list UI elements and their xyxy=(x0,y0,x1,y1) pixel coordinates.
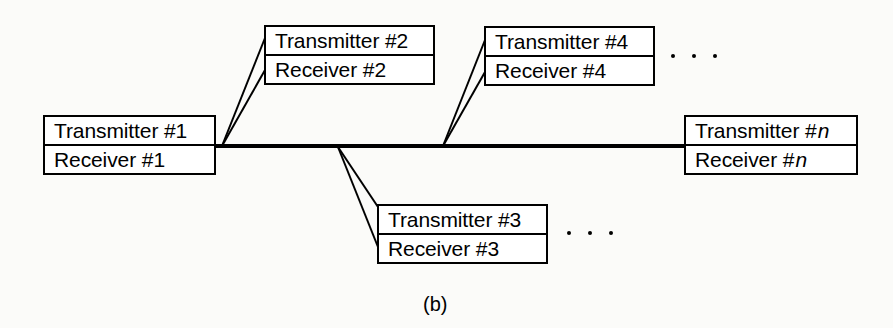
drop-lines-node-4 xyxy=(443,40,485,146)
receiver-prefix-n: Receiver # xyxy=(695,149,794,170)
transmitter-label-n: Transmitter #n xyxy=(686,117,856,146)
bus-topology-diagram: Transmitter #1 Receiver #1 Transmitter #… xyxy=(0,0,893,328)
node-box-4[interactable]: Transmitter #4 Receiver #4 xyxy=(484,26,655,86)
receiver-label-4: Receiver #4 xyxy=(486,57,653,84)
drop-lines-node-2 xyxy=(222,38,265,146)
receiver-label-2: Receiver #2 xyxy=(266,56,433,83)
node-box-n[interactable]: Transmitter #n Receiver #n xyxy=(684,115,858,175)
node-box-1[interactable]: Transmitter #1 Receiver #1 xyxy=(43,115,216,175)
node-box-2[interactable]: Transmitter #2 Receiver #2 xyxy=(264,25,435,85)
transmitter-label-3: Transmitter #3 xyxy=(379,206,546,235)
transmitter-prefix-n: Transmitter # xyxy=(695,120,817,141)
drop-lines-node-3 xyxy=(338,147,378,247)
node-box-3[interactable]: Transmitter #3 Receiver #3 xyxy=(377,204,548,264)
receiver-label-1: Receiver #1 xyxy=(45,146,214,173)
node-index-n-transmitter: n xyxy=(817,120,830,141)
receiver-label-3: Receiver #3 xyxy=(379,235,546,262)
receiver-label-n: Receiver #n xyxy=(686,146,856,173)
ellipsis-dot xyxy=(609,231,613,235)
ellipsis-top xyxy=(671,54,717,58)
ellipsis-dot xyxy=(567,231,571,235)
ellipsis-dot xyxy=(692,54,696,58)
node-index-n-receiver: n xyxy=(794,149,807,170)
ellipsis-dot xyxy=(713,54,717,58)
ellipsis-dot xyxy=(671,54,675,58)
transmitter-label-2: Transmitter #2 xyxy=(266,27,433,56)
figure-caption: (b) xyxy=(423,294,447,314)
transmitter-label-4: Transmitter #4 xyxy=(486,28,653,57)
ellipsis-bottom xyxy=(567,231,613,235)
ellipsis-dot xyxy=(588,231,592,235)
transmitter-label-1: Transmitter #1 xyxy=(45,117,214,146)
